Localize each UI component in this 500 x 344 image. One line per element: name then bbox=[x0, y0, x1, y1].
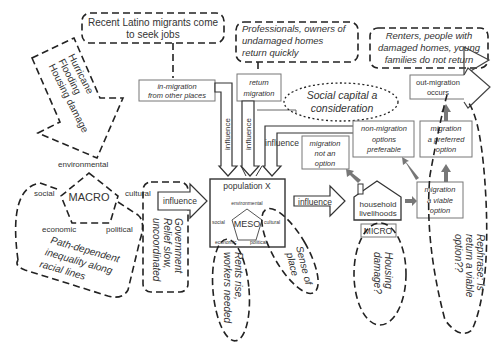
box-non-migration-preferable: non-migration options preferable bbox=[353, 121, 414, 157]
migration-diagram: Recent Latino migrants come to seek jobs… bbox=[0, 0, 500, 344]
arrow-household-to-viable bbox=[405, 196, 417, 206]
note-professionals-line2: undamaged homes bbox=[242, 35, 324, 46]
housing-damage-line1: Housing bbox=[383, 252, 394, 289]
macro-political: political bbox=[106, 225, 133, 234]
note-renters-line3: families do not return bbox=[385, 54, 474, 65]
macro-cultural: cultural bbox=[125, 189, 151, 198]
macro-pentagon: environmental MACRO social cultural econ… bbox=[34, 160, 151, 234]
housing-damage-note: Housing damage? bbox=[354, 223, 406, 325]
box-migration-viable: migration a viable option bbox=[417, 182, 463, 218]
non-migration-line3: preferable bbox=[366, 145, 401, 154]
influence-label-macro: influence bbox=[163, 196, 197, 206]
influence-label-not-option: influence bbox=[265, 138, 299, 148]
preferred-line3: option bbox=[436, 145, 456, 154]
macro-economic: economic bbox=[42, 225, 76, 234]
preferred-line2: a preferred bbox=[428, 135, 466, 144]
note-professionals-line1: Professionals, owners of bbox=[242, 23, 347, 34]
population-x-box: population X environmental MESO social c… bbox=[210, 179, 285, 247]
household-house: household livelihoods MICRO bbox=[354, 181, 401, 237]
influence-arrow-return-migration: influence bbox=[241, 101, 259, 176]
in-migration-line1: in-migration bbox=[157, 82, 196, 91]
government-line2: Relief slow, bbox=[162, 218, 173, 269]
meso-environmental: environmental bbox=[231, 200, 262, 206]
rephrase-line1: Rephrase: Is bbox=[475, 234, 486, 291]
not-option-line3: option bbox=[315, 159, 335, 168]
return-migration-line2: migration bbox=[244, 89, 275, 98]
macro-social: social bbox=[34, 189, 55, 198]
non-migration-line1: non-migration bbox=[361, 124, 407, 133]
government-line3: uncoordinated bbox=[151, 218, 162, 282]
note-professionals: Professionals, owners of undamaged homes… bbox=[236, 22, 358, 72]
rephrase-line3: option?? bbox=[453, 234, 464, 273]
household-line1: household bbox=[360, 200, 397, 209]
influence-label-return: influence bbox=[244, 117, 253, 150]
influence-label-meso: influence bbox=[298, 197, 332, 207]
arrow-preferred-to-out bbox=[441, 104, 451, 121]
influence-arrow-macro-meso: influence bbox=[158, 184, 207, 218]
hurricane-arrow: Hurricane Flooding Housing damage bbox=[32, 38, 123, 158]
arrow-viable-to-preferred bbox=[441, 164, 451, 182]
rents-line1: Rents rise, bbox=[233, 252, 244, 300]
macro-environmental: environmental bbox=[58, 160, 108, 169]
non-migration-line2: options bbox=[372, 135, 396, 144]
influence-arrow-in-migration: influence bbox=[215, 83, 237, 176]
meso-label: MESO bbox=[234, 219, 261, 229]
rents-rise-note: Rents rise, workers needed bbox=[209, 238, 254, 343]
note-latino-migrants: Recent Latino migrants come to seek jobs bbox=[82, 13, 224, 78]
note-renters: Renters, people with damaged homes, youn… bbox=[370, 28, 488, 68]
viable-line2: a viable bbox=[427, 196, 453, 205]
return-migration-line1: return bbox=[249, 78, 269, 87]
rents-line2: workers needed bbox=[222, 252, 233, 324]
box-in-migration: in-migration from other places bbox=[139, 80, 215, 101]
box-migration-not-option: migration not an option bbox=[302, 136, 349, 169]
in-migration-line2: from other places bbox=[148, 91, 206, 100]
housing-damage-line2: damage? bbox=[372, 252, 383, 294]
meso-social: social bbox=[212, 219, 225, 225]
box-migration-preferred: migration a preferred option bbox=[420, 121, 472, 157]
not-option-line1: migration bbox=[310, 139, 341, 148]
macro-label: MACRO bbox=[69, 191, 110, 203]
note-renters-line1: Renters, people with bbox=[386, 30, 473, 41]
out-migration-line1: out-migration bbox=[416, 78, 460, 87]
arrow-household-to-not-option bbox=[346, 169, 361, 183]
influence-label-in-migration: influence bbox=[223, 117, 232, 150]
household-line2: livelihoods bbox=[359, 209, 396, 218]
viable-line3: option bbox=[430, 206, 450, 215]
meso-cultural: cultural bbox=[264, 219, 280, 225]
rephrase-line2: return a viable bbox=[464, 234, 475, 298]
social-capital-note: Social capital a consideration bbox=[284, 83, 398, 121]
micro-label: MICRO bbox=[364, 226, 393, 236]
arrow-viable-to-non-migration bbox=[402, 157, 419, 180]
social-capital-line2: consideration bbox=[311, 102, 374, 114]
influence-arrow-meso-micro: influence bbox=[294, 186, 345, 216]
meso-political: political bbox=[250, 239, 267, 245]
social-capital-line1: Social capital a bbox=[307, 89, 378, 101]
note-professionals-line3: return quickly bbox=[242, 47, 300, 58]
not-option-line2: not an bbox=[315, 149, 336, 158]
government-line1: Government bbox=[173, 218, 184, 274]
note-latino-line1: Recent Latino migrants come bbox=[88, 17, 219, 28]
out-migration-line2: occurs bbox=[427, 88, 449, 97]
preferred-line1: migration bbox=[431, 124, 462, 133]
note-latino-line2: to seek jobs bbox=[126, 29, 179, 40]
population-x-title: population X bbox=[223, 181, 271, 191]
box-return-migration: return migration bbox=[237, 74, 281, 101]
